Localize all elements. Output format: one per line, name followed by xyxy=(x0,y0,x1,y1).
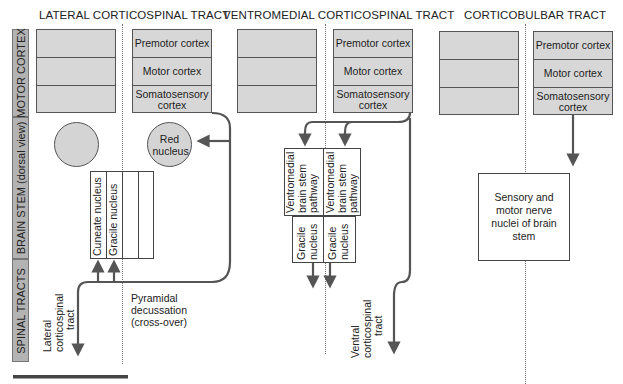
baseline-bar xyxy=(13,375,128,379)
tract-arrows xyxy=(0,0,623,384)
